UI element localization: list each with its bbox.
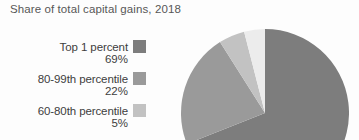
legend-row: Top 1 percent xyxy=(0,40,146,53)
legend-item-60-80th-percentile: 60-80th percentile 5% xyxy=(0,104,146,129)
pie-chart xyxy=(181,29,349,140)
legend-item-top-1-percent: Top 1 percent 69% xyxy=(0,40,146,65)
legend-item-80-99th-percentile: 80-99th percentile 22% xyxy=(0,72,146,97)
legend-swatch-icon xyxy=(133,72,146,85)
legend-swatch-icon xyxy=(133,40,146,53)
legend-row: 80-99th percentile xyxy=(0,72,146,85)
legend-swatch-icon xyxy=(133,104,146,117)
pie-chart-svg xyxy=(181,29,349,140)
legend-row: 60-80th percentile xyxy=(0,104,146,117)
pie-slice-group xyxy=(181,29,349,140)
legend-item-label: 60-80th percentile xyxy=(38,105,128,117)
legend-item-value: 69% xyxy=(0,53,146,65)
chart-legend: Top 1 percent 69% 80-99th percentile 22%… xyxy=(0,40,146,136)
figure-container: Share of total capital gains, 2018 Top 1… xyxy=(0,0,359,140)
legend-item-label: 80-99th percentile xyxy=(38,73,128,85)
legend-item-value: 5% xyxy=(0,117,146,129)
legend-item-value: 22% xyxy=(0,85,146,97)
page-title: Share of total capital gains, 2018 xyxy=(10,3,181,15)
legend-item-label: Top 1 percent xyxy=(60,41,128,53)
